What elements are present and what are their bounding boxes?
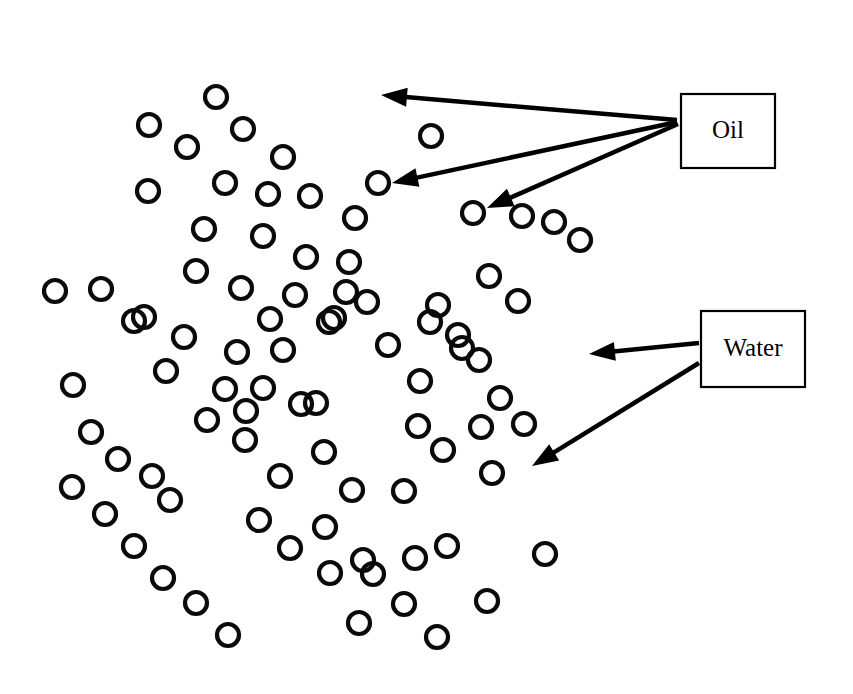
particle-circle [137, 180, 159, 202]
label-layer: OilWater [681, 94, 805, 387]
pointer-layer [381, 88, 699, 466]
particle-circle [407, 415, 429, 437]
particle-circle [451, 337, 473, 359]
particle-circle [470, 416, 492, 438]
particle-circle [513, 413, 535, 435]
particle-circle [185, 260, 207, 282]
particle-circle [511, 205, 533, 227]
particle-circle [62, 374, 84, 396]
particle-circle [313, 441, 335, 463]
particle-circle [476, 590, 498, 612]
pointer-line [403, 97, 677, 120]
particle-circle [230, 277, 252, 299]
particle-circle [138, 114, 160, 136]
particle-circle [534, 543, 556, 565]
figure-canvas: OilWater [0, 0, 853, 694]
particle-circle [94, 503, 116, 525]
particle-circle [159, 489, 181, 511]
particle-circle [284, 284, 306, 306]
particle-circle [272, 339, 294, 361]
particle-circle [193, 218, 215, 240]
particle-circle [404, 547, 426, 569]
particle-circle [367, 172, 389, 194]
particle-circle [205, 86, 227, 108]
particle-circle [152, 567, 174, 589]
particle-circle [377, 334, 399, 356]
particle-circle [248, 509, 270, 531]
emulsion-diagram: OilWater [0, 0, 853, 694]
particle-circle [61, 476, 83, 498]
particle-circle [80, 421, 102, 443]
particle-circle [314, 516, 336, 538]
particle-circle [338, 251, 360, 273]
particle-circle [393, 593, 415, 615]
pointer-line [611, 343, 699, 352]
particle-circle [226, 341, 248, 363]
particle-circle [295, 246, 317, 268]
particle-circle [426, 626, 448, 648]
particle-circle [259, 308, 281, 330]
particle-circle [217, 624, 239, 646]
particle-circle [299, 185, 321, 207]
particle-circle [335, 281, 357, 303]
particle-circle [257, 183, 279, 205]
pointer-arrowhead [381, 88, 408, 107]
label-text-water: Water [723, 334, 783, 361]
particle-circle [185, 592, 207, 614]
particle-circle [409, 370, 431, 392]
label-callout-oil[interactable]: Oil [681, 94, 775, 168]
particle-circle [569, 229, 591, 251]
particle-circle [507, 290, 529, 312]
particle-circle [305, 392, 327, 414]
particle-circle [344, 207, 366, 229]
pointer-arrowhead [392, 168, 419, 187]
pointer-arrowhead [487, 189, 515, 208]
particle-circle [107, 448, 129, 470]
particle-circle [436, 535, 458, 557]
particle-circle [393, 480, 415, 502]
particle-circle [356, 291, 378, 313]
particle-circle [252, 377, 274, 399]
particle-circle [155, 360, 177, 382]
particle-circle [176, 136, 198, 158]
particle-circle [173, 326, 195, 348]
particle-circle [462, 202, 484, 224]
particle-circle [478, 265, 500, 287]
particle-circle [196, 409, 218, 431]
particle-circle [348, 612, 370, 634]
particle-circle [432, 439, 454, 461]
particle-circle [481, 462, 503, 484]
particle-circle [543, 211, 565, 233]
particle-circle [272, 146, 294, 168]
particle-layer [44, 86, 591, 648]
particle-circle [214, 378, 236, 400]
label-callout-water[interactable]: Water [701, 311, 805, 387]
pointer-line [507, 124, 678, 199]
particle-circle [420, 125, 442, 147]
particle-circle [234, 429, 256, 451]
pointer-line [551, 363, 699, 454]
particle-circle [214, 172, 236, 194]
particle-circle [123, 535, 145, 557]
particle-circle [252, 225, 274, 247]
pointer-line [414, 122, 677, 178]
particle-circle [279, 537, 301, 559]
particle-circle [489, 387, 511, 409]
particle-circle [44, 280, 66, 302]
particle-circle [141, 465, 163, 487]
pointer-arrowhead [589, 342, 616, 361]
particle-circle [90, 278, 112, 300]
particle-circle [235, 400, 257, 422]
particle-circle [269, 465, 291, 487]
label-text-oil: Oil [712, 116, 744, 143]
particle-circle [341, 479, 363, 501]
particle-circle [232, 118, 254, 140]
pointer-arrowhead [532, 444, 559, 466]
particle-circle [319, 562, 341, 584]
